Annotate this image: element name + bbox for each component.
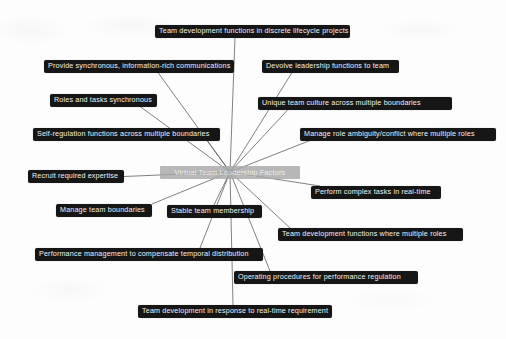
node-performance-management-temporal[interactable]: Performance management to compensate tem…	[35, 248, 263, 261]
node-manage-team-boundaries[interactable]: Manage team boundaries	[56, 204, 152, 217]
node-unique-team-culture[interactable]: Unique team culture across multiple boun…	[258, 97, 452, 110]
node-team-development-discrete-lifecycle[interactable]: Team development functions in discrete l…	[155, 25, 350, 38]
node-perform-complex-tasks[interactable]: Perform complex tasks in real-time	[311, 186, 441, 199]
edge-team-development-multiple-roles	[230, 172, 290, 228]
node-team-development-multiple-roles[interactable]: Team development functions where multipl…	[278, 228, 463, 241]
node-devolve-leadership-functions[interactable]: Devolve leadership functions to team	[262, 60, 399, 73]
edge-team-development-discrete-lifecycle	[230, 38, 235, 173]
edge-team-development-real-time	[230, 172, 233, 305]
node-manage-role-ambiguity[interactable]: Manage role ambiguity/conflict where mul…	[300, 128, 496, 141]
node-self-regulation-functions[interactable]: Self-regulation functions across multipl…	[33, 128, 220, 141]
node-team-development-real-time[interactable]: Team development in response to real-tim…	[138, 305, 332, 318]
edge-devolve-leadership-functions	[230, 73, 292, 173]
node-stable-team-membership[interactable]: Stable team membership	[167, 205, 262, 218]
node-roles-and-tasks-synchronous[interactable]: Roles and tasks synchronous	[50, 94, 157, 107]
node-operating-procedures[interactable]: Operating procedures for performance reg…	[234, 271, 418, 284]
center-node-virtual-team-leadership-factors[interactable]: Virtual Team Leadership Factors	[160, 166, 300, 179]
edge-unique-team-culture	[230, 110, 288, 173]
node-provide-synchronous-communications[interactable]: Provide synchronous, information-rich co…	[44, 60, 234, 73]
node-recruit-required-expertise[interactable]: Recruit required expertise	[28, 170, 124, 183]
diagram-canvas: Team development functions in discrete l…	[0, 0, 506, 339]
